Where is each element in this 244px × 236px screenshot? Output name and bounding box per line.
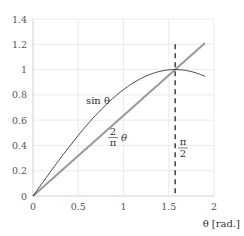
x-axis-ticks: 00.511.52 — [30, 201, 217, 212]
x-tick-label: 0 — [30, 201, 36, 212]
x-tick-label: 1 — [120, 201, 126, 212]
linear-line — [33, 43, 205, 196]
x-tick-label: 0.5 — [71, 201, 86, 212]
y-tick-label: 0.4 — [12, 140, 27, 151]
linear-label: 2 π θ — [108, 126, 127, 148]
svg-text:2: 2 — [180, 148, 186, 159]
svg-text:π: π — [180, 136, 187, 147]
sin-label: sin θ — [86, 95, 110, 106]
y-axis-ticks: 00.20.40.60.811.21.4 — [12, 14, 27, 202]
chart: 00.20.40.60.811.21.4 00.511.52 sin θ 2 π… — [0, 0, 244, 236]
x-tick-label: 1.5 — [161, 201, 176, 212]
svg-text:π: π — [110, 137, 117, 148]
y-tick-label: 1 — [21, 64, 27, 75]
y-tick-label: 0.6 — [12, 115, 27, 126]
x-axis-label: θ [rad.] — [203, 218, 240, 229]
svg-text:2: 2 — [110, 126, 116, 137]
y-tick-label: 1.4 — [12, 14, 27, 25]
series — [33, 43, 205, 196]
svg-text:θ: θ — [121, 132, 127, 143]
x-tick-label: 2 — [211, 201, 217, 212]
y-tick-label: 1.2 — [12, 39, 27, 50]
grid-lines — [33, 19, 214, 196]
y-tick-label: 0 — [21, 191, 27, 202]
sin-curve — [33, 70, 205, 196]
pi-half-label: π 2 — [178, 136, 188, 159]
y-tick-label: 0.8 — [12, 89, 27, 100]
y-tick-label: 0.2 — [12, 165, 27, 176]
